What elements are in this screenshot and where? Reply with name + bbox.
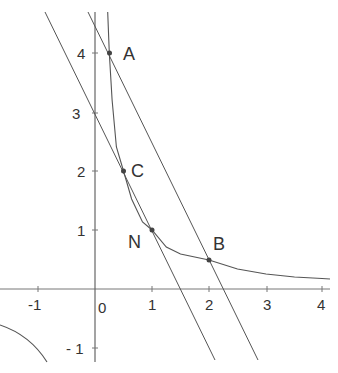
point-c (121, 169, 126, 174)
point-n (150, 228, 155, 233)
x-tick-label: 3 (263, 296, 271, 313)
point-label-a: A (123, 44, 135, 64)
y-tick-label: 1 (77, 222, 85, 239)
x-tick-label: -1 (28, 296, 41, 313)
y-tick-label: 2 (77, 163, 85, 180)
x-tick-label: 1 (148, 296, 156, 313)
y-tick-label: 3 (72, 105, 80, 122)
point-label-n: N (128, 232, 141, 252)
line-cn (45, 12, 215, 360)
x-tick-label: 0 (98, 299, 106, 316)
point-b (207, 258, 212, 263)
y-tick-label: - 1 (66, 340, 84, 357)
x-tick-label: 4 (317, 296, 325, 313)
graph-canvas: -1 0 1 2 3 4 4 3 2 1 - 1 A C N B (0, 0, 338, 373)
point-a (107, 51, 112, 56)
line-ab (88, 12, 258, 360)
point-label-b: B (213, 234, 225, 254)
hyperbola-curve-negative (0, 325, 47, 362)
y-tick-label: 4 (77, 45, 85, 62)
point-label-c: C (131, 161, 144, 181)
x-tick-label: 2 (205, 296, 213, 313)
